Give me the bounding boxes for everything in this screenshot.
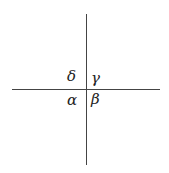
angle-label-bottom-left: α — [67, 93, 77, 108]
angle-label-top-left: δ — [67, 69, 76, 84]
horizontal-line — [12, 89, 160, 90]
angle-label-bottom-right: β — [91, 92, 100, 107]
angle-label-top-right: γ — [91, 71, 100, 86]
